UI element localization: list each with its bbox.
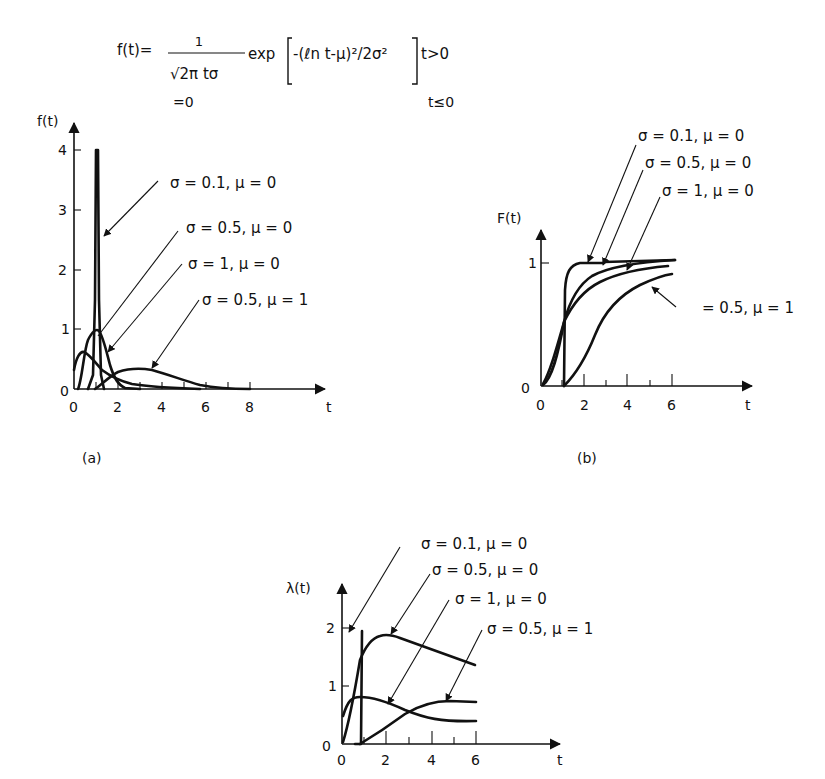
- label-b-sigma05-mu1: = 0.5, μ = 1: [702, 299, 794, 317]
- svg-text:6: 6: [471, 752, 480, 768]
- formula: f(t)= 1 √2π tσ exp -(ℓn t-μ)²/2σ² t>0 =0…: [117, 34, 454, 110]
- formula-denominator: √2π tσ: [170, 65, 219, 83]
- leader-a-sigma05-mu1: [152, 300, 199, 368]
- curve-a-sigma01: [88, 150, 104, 389]
- label-a-sigma05: σ = 0.5, μ = 0: [186, 219, 292, 237]
- svg-text:2: 2: [381, 752, 390, 768]
- svg-text:0: 0: [337, 752, 346, 768]
- left-bracket: [288, 38, 292, 84]
- formula-lhs: f(t)=: [117, 41, 152, 59]
- y-label-c: λ(t): [286, 580, 311, 596]
- svg-text:1: 1: [328, 678, 337, 694]
- x-label-c: t: [557, 752, 563, 768]
- svg-text:2: 2: [58, 262, 67, 278]
- panel-a-density: f(t) t 4 3 2 1 0 0 2 4 6 8: [37, 113, 332, 466]
- x-label-a: t: [326, 399, 332, 415]
- x-ticks-b: 0 2 4 6: [536, 374, 676, 413]
- svg-text:2: 2: [580, 397, 589, 413]
- svg-text:0: 0: [322, 738, 331, 754]
- svg-text:8: 8: [245, 399, 254, 415]
- svg-text:0: 0: [536, 397, 545, 413]
- svg-text:0: 0: [60, 383, 69, 399]
- formula-condition2: t≤0: [428, 94, 454, 110]
- formula-line2-value: =0: [173, 94, 194, 110]
- curve-c-sigma05: [343, 635, 475, 742]
- svg-text:4: 4: [427, 752, 436, 768]
- curve-a-sigma05: [78, 330, 140, 389]
- label-a-sigma05-mu1: σ = 0.5, μ = 1: [202, 291, 308, 309]
- svg-text:0: 0: [521, 380, 530, 396]
- y-ticks-b: 1 0: [521, 255, 549, 396]
- label-b-sigma1: σ = 1, μ = 0: [662, 182, 754, 200]
- svg-text:6: 6: [667, 397, 676, 413]
- formula-numerator: 1: [195, 34, 203, 49]
- svg-text:2: 2: [326, 620, 335, 636]
- leader-b-sigma1: [627, 197, 660, 270]
- label-a-sigma1: σ = 1, μ = 0: [188, 255, 280, 273]
- label-c-sigma01: σ = 0.1, μ = 0: [421, 535, 527, 553]
- svg-text:4: 4: [157, 399, 166, 415]
- y-label-b: F(t): [497, 210, 521, 226]
- curve-b-sigma1: [543, 266, 668, 384]
- svg-text:1: 1: [61, 321, 70, 337]
- svg-text:4: 4: [58, 142, 67, 158]
- svg-text:0: 0: [69, 399, 78, 415]
- leader-c-sigma05-mu1: [446, 630, 482, 701]
- label-b-sigma05: σ = 0.5, μ = 0: [645, 154, 751, 172]
- curve-c-sigma05-mu1: [360, 701, 476, 744]
- label-c-sigma05: σ = 0.5, μ = 0: [432, 561, 538, 579]
- lognormal-figure: f(t)= 1 √2π tσ exp -(ℓn t-μ)²/2σ² t>0 =0…: [0, 0, 825, 779]
- x-ticks-c: 0 2 4 6: [337, 731, 480, 768]
- caption-a: (a): [82, 450, 102, 466]
- x-label-b: t: [745, 397, 751, 413]
- svg-text:2: 2: [113, 399, 122, 415]
- formula-exp: exp: [248, 45, 275, 63]
- caption-b: (b): [577, 450, 597, 466]
- panel-b-cdf: F(t) t 1 0 0 2 4 6 σ = 0.1, μ = 0 σ = 0.…: [497, 127, 794, 466]
- panel-c-hazard: λ(t) t 2 1 0 0 2 4 6 σ = 0.1, μ = 0 σ = …: [286, 535, 593, 768]
- leader-c-sigma01: [349, 547, 400, 632]
- leader-c-sigma05: [391, 574, 430, 634]
- svg-text:1: 1: [528, 255, 537, 271]
- label-c-sigma05-mu1: σ = 0.5, μ = 1: [487, 620, 593, 638]
- label-c-sigma1: σ = 1, μ = 0: [455, 590, 547, 608]
- leader-b-sigma05: [603, 170, 643, 265]
- label-b-sigma01: σ = 0.1, μ = 0: [638, 127, 744, 145]
- leader-b-sigma05-mu1: [652, 287, 676, 307]
- label-a-sigma01: σ = 0.1, μ = 0: [170, 174, 276, 192]
- formula-condition1: t>0: [421, 45, 449, 63]
- right-bracket: [412, 38, 417, 84]
- y-label-a: f(t): [37, 113, 58, 129]
- svg-text:3: 3: [58, 202, 67, 218]
- formula-bracket-content: -(ℓn t-μ)²/2σ²: [293, 45, 388, 63]
- svg-text:6: 6: [201, 399, 210, 415]
- leader-a-sigma01: [104, 181, 158, 236]
- svg-text:4: 4: [623, 397, 632, 413]
